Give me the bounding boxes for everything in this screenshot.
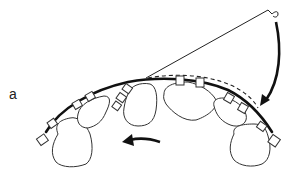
tooth-central xyxy=(164,82,217,120)
dental-arch-diagram xyxy=(0,0,298,182)
bracket xyxy=(36,134,48,146)
arrow-head xyxy=(122,134,134,146)
tooth-left-premolar xyxy=(77,96,109,128)
hook-icon xyxy=(268,10,278,17)
bracket xyxy=(176,76,184,85)
curved-arrow-left-icon xyxy=(130,139,160,142)
curved-arrow-down-icon xyxy=(266,22,279,100)
bracket xyxy=(112,101,122,111)
bracket xyxy=(196,78,204,87)
ligature-line xyxy=(146,10,268,78)
